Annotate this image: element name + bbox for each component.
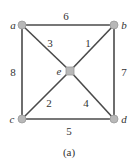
weight-a-b: 6 bbox=[63, 10, 69, 22]
node-label-e: e bbox=[57, 65, 62, 77]
node-c bbox=[18, 115, 26, 123]
edge-c-e bbox=[22, 71, 70, 119]
edge-b-e bbox=[70, 25, 114, 71]
node-label-c: c bbox=[10, 113, 15, 125]
node-d bbox=[110, 115, 118, 123]
weight-b-e: 1 bbox=[85, 37, 91, 49]
weight-a-e: 3 bbox=[47, 37, 53, 49]
node-b bbox=[110, 21, 118, 29]
node-a bbox=[18, 21, 26, 29]
weight-b-d: 7 bbox=[121, 66, 127, 78]
node-label-a: a bbox=[10, 19, 16, 31]
node-label-b: b bbox=[121, 19, 127, 31]
node-e bbox=[66, 67, 74, 75]
edge-e-d bbox=[70, 71, 114, 119]
weight-c-e: 2 bbox=[46, 97, 52, 109]
weight-a-c: 8 bbox=[10, 66, 16, 78]
figure-caption: (a) bbox=[63, 146, 76, 159]
weight-c-d: 5 bbox=[66, 125, 72, 137]
node-label-d: d bbox=[121, 113, 127, 125]
weight-e-d: 4 bbox=[83, 97, 89, 109]
weighted-graph: 6 1 3 8 7 2 4 5 a b c d e (a) bbox=[0, 0, 137, 168]
edge-a-e bbox=[22, 25, 70, 71]
